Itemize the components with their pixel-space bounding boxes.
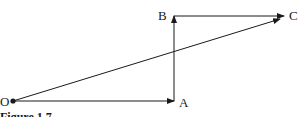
vector-diagram: O A B C Figure 1.7: [0, 0, 302, 117]
figure-caption: Figure 1.7: [0, 110, 52, 117]
origin-dot: [10, 98, 15, 103]
vector-OC: [13, 19, 280, 101]
label-A: A: [179, 95, 189, 110]
label-B: B: [158, 8, 167, 23]
label-O: O: [0, 94, 9, 109]
label-C: C: [289, 8, 298, 23]
